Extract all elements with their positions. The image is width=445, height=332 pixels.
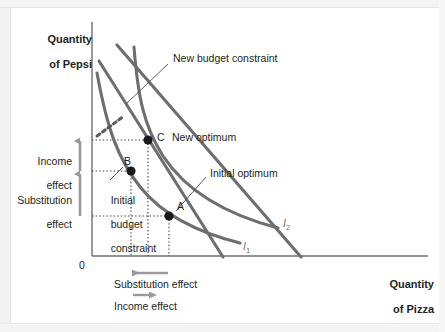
substitution-effect-vertical-label: Substitution effect xyxy=(2,182,72,242)
income-effect-horizontal-label: Income effect xyxy=(114,300,177,312)
curve-label-i1: I1 xyxy=(243,240,250,256)
y-axis-label-line1: Quantity xyxy=(47,33,92,45)
leader-line-initial-budget-constraint xyxy=(110,167,123,180)
substitution-effect-vertical-line2: effect xyxy=(47,218,73,230)
curve-label-i2: I2 xyxy=(283,217,290,233)
substitution-effect-vertical-line1: Substitution xyxy=(17,194,72,206)
initial-optimum-label: Initial optimum xyxy=(210,167,278,179)
x-axis-label-line2: of Pizza xyxy=(393,303,434,315)
y-axis-label-line2: of Pepsi xyxy=(49,58,92,70)
initial-budget-constraint-line1: Initial xyxy=(111,194,136,206)
point-marker-a xyxy=(164,211,173,220)
initial-budget-constraint-line3: constraint xyxy=(111,242,157,254)
point-label-c: C xyxy=(157,131,165,143)
substitution-effect-horizontal-label: Substitution effect xyxy=(114,278,197,290)
indifference-curve-figure: Quantity of Pepsi Quantity of Pizza 0 Ne… xyxy=(0,0,445,332)
initial-budget-constraint-label: Initial budget constraint xyxy=(99,182,156,266)
new-budget-constraint-label: New budget constraint xyxy=(173,52,277,64)
curve-label-i2-subscript: 2 xyxy=(286,223,290,232)
income-effect-vertical-line1: Income xyxy=(38,155,72,167)
origin-label: 0 xyxy=(79,259,85,271)
initial-budget-constraint-line2: budget xyxy=(111,218,143,230)
curve-label-i1-subscript: 1 xyxy=(246,246,250,255)
x-axis-label: Quantity of Pizza xyxy=(372,265,434,328)
point-label-b: B xyxy=(124,155,131,167)
point-marker-b xyxy=(126,166,135,175)
new-optimum-label: New optimum xyxy=(172,131,236,143)
point-marker-c xyxy=(143,135,152,144)
point-label-a: A xyxy=(177,200,184,212)
y-axis-label: Quantity of Pepsi xyxy=(34,20,92,83)
x-axis-label-line1: Quantity xyxy=(389,278,434,290)
